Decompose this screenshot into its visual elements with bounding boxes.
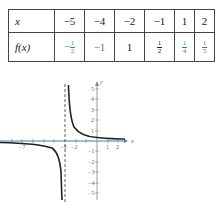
y-tick-label: −5 xyxy=(88,190,94,196)
x-cell: −5 xyxy=(55,10,85,33)
y-axis-label: y xyxy=(99,79,103,85)
fx-cell: 15 xyxy=(195,33,215,62)
y-tick-label: −3 xyxy=(88,169,94,175)
x-cell: −1 xyxy=(145,10,175,33)
y-tick-label: 4 xyxy=(91,96,94,102)
function-graph: x y 5 4 3 2 1 −1 −2 −3 −4 −5 −7 −3 −2 1 … xyxy=(0,76,219,217)
y-tick-label: −2 xyxy=(88,159,94,165)
fraction: 12 xyxy=(70,40,75,55)
fx-cell: −12 xyxy=(55,33,85,62)
y-tick-label: 5 xyxy=(91,86,94,92)
fraction: 12 xyxy=(157,40,162,55)
y-tick-label: 2 xyxy=(91,117,94,123)
table-row-fx: f(x) −12 −1 1 12 14 15 xyxy=(9,33,215,62)
x-tick-label: −7 xyxy=(19,144,25,150)
row-label-x: x xyxy=(9,10,55,33)
fx-cell: 12 xyxy=(145,33,175,62)
row-label-fx: f(x) xyxy=(9,33,55,62)
value-table: x −5 −4 −2 −1 1 2 f(x) −12 −1 1 12 14 15 xyxy=(8,9,215,62)
fx-cell: 1 xyxy=(115,33,145,62)
fx-cell: −1 xyxy=(85,33,115,62)
curve-left-branch xyxy=(0,143,62,201)
x-cell: −4 xyxy=(85,10,115,33)
y-tick-label: −4 xyxy=(88,180,94,186)
x-tick-label: −3 xyxy=(60,144,66,150)
x-axis-label: x xyxy=(130,138,134,144)
fraction: 15 xyxy=(202,40,207,55)
x-tick-label: 1 xyxy=(106,144,109,150)
y-tick-label: 3 xyxy=(91,107,94,113)
y-axis-arrow-icon xyxy=(95,81,99,86)
table-row-x: x −5 −4 −2 −1 1 2 xyxy=(9,10,215,33)
fraction: 14 xyxy=(182,40,187,55)
y-tick-label: 1 xyxy=(91,128,94,134)
x-cell: −2 xyxy=(115,10,145,33)
y-tick-label: −1 xyxy=(88,148,94,154)
fx-cell: 14 xyxy=(175,33,195,62)
x-tick-label: −2 xyxy=(71,144,77,150)
x-tick-label: 2 xyxy=(116,144,119,150)
x-cell: 1 xyxy=(175,10,195,33)
x-cell: 2 xyxy=(195,10,215,33)
